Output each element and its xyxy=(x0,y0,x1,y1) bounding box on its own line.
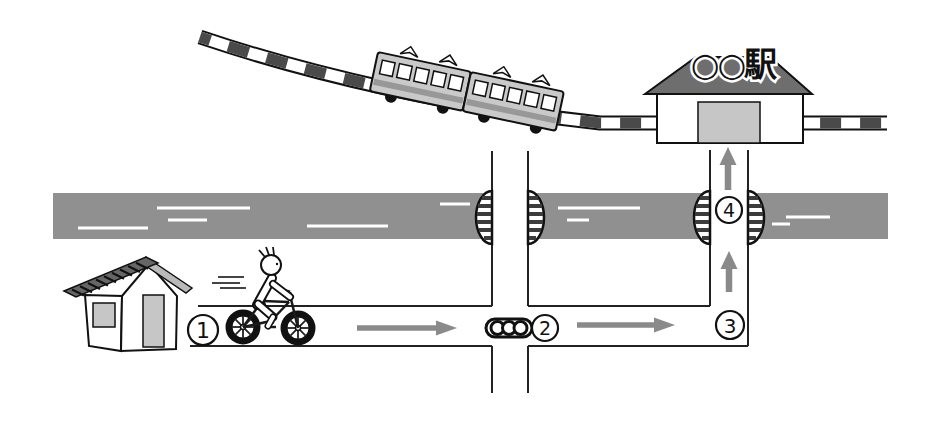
waypoint-3-label: 3 xyxy=(724,314,737,338)
waypoint-3: 3 xyxy=(716,311,744,339)
train-icon xyxy=(368,40,566,137)
train-window xyxy=(380,60,396,76)
route-illustration: ○○駅 xyxy=(0,0,935,421)
rider-eye xyxy=(276,263,278,265)
train-window xyxy=(524,91,540,107)
train-window xyxy=(431,71,447,87)
station-door xyxy=(698,102,760,143)
pantograph-icon xyxy=(532,73,551,86)
train-car-1 xyxy=(368,40,473,117)
waypoint-2: 2 xyxy=(532,315,558,341)
train-window xyxy=(541,95,557,111)
station-sign: ○○駅 xyxy=(691,45,778,84)
station-building: ○○駅 xyxy=(645,45,812,143)
pantograph-icon xyxy=(439,53,458,66)
speed-lines xyxy=(212,277,246,288)
house-icon xyxy=(64,257,192,351)
train-window xyxy=(490,84,506,100)
pantograph-icon xyxy=(493,65,512,78)
road-vertical-center xyxy=(492,151,528,393)
train-window xyxy=(448,75,464,91)
train-car-2 xyxy=(461,60,566,137)
waypoint-4-label: 4 xyxy=(723,199,735,221)
train-window xyxy=(507,87,523,103)
train-window xyxy=(414,67,430,83)
waypoint-4: 4 xyxy=(716,197,742,223)
rider-head xyxy=(261,255,281,275)
waypoint-2-label: 2 xyxy=(539,317,551,339)
waypoint-1-label: 1 xyxy=(196,318,210,343)
house-window xyxy=(93,303,115,327)
house-door xyxy=(143,295,164,347)
waypoint-1: 1 xyxy=(188,315,218,345)
train-window xyxy=(473,80,489,96)
traffic-light-icon xyxy=(486,319,532,337)
pantograph-icon xyxy=(400,45,419,58)
train-window xyxy=(397,64,413,80)
signal-lamp xyxy=(514,322,527,335)
